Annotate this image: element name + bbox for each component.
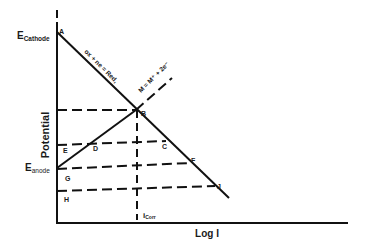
- point-j-label: J: [217, 183, 221, 190]
- cathodic-reaction-label: ox + ne = Red,: [83, 48, 120, 85]
- point-h-label: H: [64, 196, 69, 203]
- point-f-label: F: [191, 157, 196, 164]
- point-b-label: B: [141, 110, 146, 117]
- evans-diagram: Potential Log I ECathode Eanode iCorr ox…: [0, 0, 366, 247]
- x-axis-label: Log I: [195, 228, 219, 239]
- e-anode-label: Eanode: [25, 162, 50, 174]
- icorr-label: iCorr: [143, 211, 156, 220]
- dashed-line-edc: [57, 141, 166, 145]
- point-g-label: G: [65, 175, 71, 182]
- dashed-line-gf: [57, 163, 190, 169]
- point-d-label: D: [93, 145, 98, 152]
- point-e-label: E: [63, 147, 68, 154]
- point-a-label: A: [59, 28, 64, 35]
- anodic-line: [57, 110, 136, 168]
- e-cathode-label: ECathode: [17, 30, 50, 42]
- point-c-label: C: [162, 143, 167, 150]
- y-axis-label: Potential: [39, 112, 51, 158]
- anodic-reaction-label: M = M⁺ + 2e⁻: [137, 60, 171, 94]
